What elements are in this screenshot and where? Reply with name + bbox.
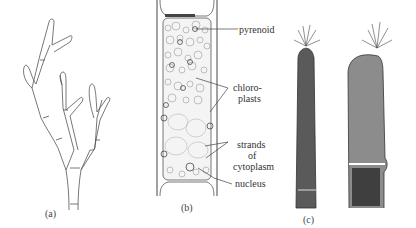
label-nucleus: nucleus (235, 178, 266, 189)
label-strands-line3: cytoplasm (233, 161, 274, 172)
label-pyrenoid: pyrenoid (239, 24, 275, 35)
caption-c: (c) (303, 214, 314, 225)
figure-canvas (0, 0, 416, 228)
label-strands-line2: of (248, 150, 256, 161)
label-chloroplasts-line1: chloro- (233, 82, 262, 93)
caption-a: (a) (45, 208, 56, 219)
branched-filament-drawing (24, 19, 110, 210)
label-strands-line1: strands (237, 139, 265, 150)
filament-tips-drawing (294, 22, 392, 208)
cell-drawing (157, 0, 238, 196)
caption-b: (b) (181, 202, 193, 213)
label-chloroplasts-line2: plasts (238, 93, 261, 104)
